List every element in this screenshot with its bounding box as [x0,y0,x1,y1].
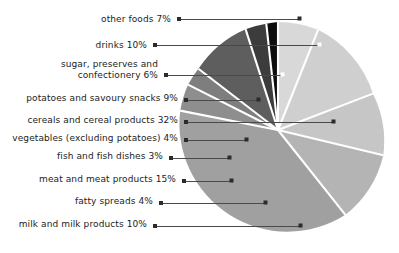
leader-marker-vegetables [245,138,249,142]
leader-marker-fish [228,156,232,160]
label-marker-fatty [159,201,163,205]
leader-marker-cereals [332,120,336,124]
leader-marker-other-foods [298,17,302,21]
leader-marker-meat [230,179,234,183]
leader-marker-sugar [281,73,285,77]
label-marker-vegetables [184,138,188,142]
pie-label-drinks: drinks 10% [96,40,147,51]
pie-label-potatoes-savoury-snacks: potatoes and savoury snacks 9% [26,93,178,104]
pie-label-meat-meat-products: meat and meat products 15% [39,174,176,185]
label-marker-potatoes [184,98,188,102]
pie-label-fatty-spreads: fatty spreads 4% [75,196,153,207]
pie-slices [179,22,384,232]
label-marker-fish [169,156,173,160]
label-marker-cereals [184,120,188,124]
pie-label-fish-fish-dishes: fish and fish dishes 3% [57,151,163,162]
label-marker-milk [153,224,157,228]
leader-marker-fatty [264,201,268,205]
leader-marker-drinks [318,43,322,47]
label-marker-other-foods [177,17,181,21]
pie-label-other-foods: other foods 7% [101,14,171,25]
leader-marker-potatoes [257,98,261,102]
leader-marker-milk [299,224,303,228]
label-marker-meat [182,179,186,183]
pie-label-vegetables-excluding-potatoes: vegetables (excluding potatoes) 4% [12,133,178,144]
pie-label-milk-milk-products: milk and milk products 10% [19,219,147,230]
pie-label-cereals-cereal-products: cereals and cereal products 32% [27,115,178,126]
pie-label-sugar-preserves-confectionery: sugar, preserves and confectionery 6% [18,59,158,81]
pie-chart-graphic [0,0,399,253]
label-marker-sugar [164,73,168,77]
pie-chart-figure: other foods 7% drinks 10% sugar, preserv… [0,0,399,253]
label-marker-drinks [153,43,157,47]
